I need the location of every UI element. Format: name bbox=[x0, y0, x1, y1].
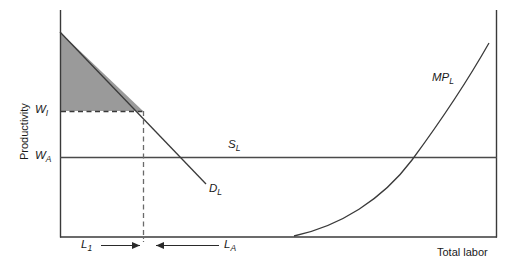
curve-label-labor-demand-sub: L bbox=[217, 187, 222, 197]
segment-label-labor-1: L1 bbox=[81, 238, 92, 253]
curve-label-marginal-product-sub: L bbox=[449, 76, 454, 86]
surplus-triangle bbox=[61, 33, 143, 111]
curve-label-marginal-product: MPL bbox=[432, 71, 454, 86]
y-tick-wage-agricultural-base: W bbox=[35, 149, 46, 161]
economics-diagram bbox=[0, 0, 513, 268]
x-axis-title: Total labor bbox=[437, 246, 488, 258]
curve-label-labor-supply: SL bbox=[228, 138, 240, 153]
curve-label-marginal-product-base: MP bbox=[432, 71, 449, 83]
curve-label-labor-supply-base: S bbox=[228, 138, 236, 150]
curve-label-labor-demand: DL bbox=[209, 182, 222, 197]
figure-container: Productivity Total labor WI WA DL SL MPL… bbox=[0, 0, 513, 268]
marginal-product-curve bbox=[294, 43, 489, 236]
y-tick-wage-industrial-sub: I bbox=[46, 108, 48, 118]
y-tick-wage-agricultural-sub: A bbox=[46, 154, 52, 164]
y-tick-wage-agricultural: WA bbox=[35, 149, 52, 164]
segment-label-labor-a: LA bbox=[224, 238, 236, 253]
y-axis-title: Productivity bbox=[18, 103, 30, 160]
curve-label-labor-supply-sub: L bbox=[236, 143, 241, 153]
y-tick-wage-industrial: WI bbox=[35, 103, 48, 118]
segment-label-labor-1-sub: 1 bbox=[87, 243, 92, 253]
segment-label-labor-a-sub: A bbox=[230, 243, 236, 253]
y-tick-wage-industrial-base: W bbox=[35, 103, 46, 115]
